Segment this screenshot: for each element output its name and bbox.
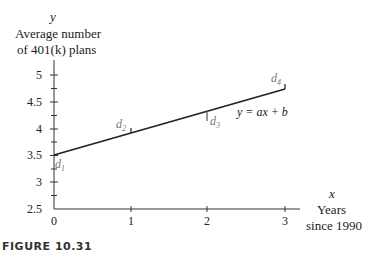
- y-axis-label-line1: Average number: [15, 26, 101, 42]
- y-tick-label-2.5: 2.5: [27, 202, 42, 217]
- x-tick-label-2: 2: [204, 214, 210, 229]
- y-tick-label-3: 3: [36, 175, 42, 190]
- regression-line: [54, 89, 285, 155]
- y-tick-label-3.5: 3.5: [27, 148, 42, 163]
- x-tick-label-0: 0: [51, 214, 57, 229]
- y-tick-label-4: 4: [36, 122, 42, 137]
- line-equation-label: y = ax + b: [237, 105, 288, 120]
- y-tick-label-4.5: 4.5: [27, 95, 42, 110]
- x-tick-label-1: 1: [128, 214, 134, 229]
- x-axis-label-line1: Years: [317, 202, 346, 218]
- y-tick-label-5: 5: [36, 68, 42, 83]
- y-axis-symbol: y: [50, 9, 56, 25]
- point-label-d2: d2d2: [116, 117, 126, 133]
- point-label-d4: d4d4: [271, 71, 281, 87]
- x-axis-label-line2: since 1990: [306, 218, 362, 234]
- y-axis-label-line2: of 401(k) plans: [17, 42, 96, 58]
- x-axis-symbol: x: [329, 186, 335, 202]
- point-label-d3: d3d3: [210, 114, 220, 130]
- point-label-d1: d1d1: [55, 157, 65, 173]
- figure-caption: FIGURE 10.31: [2, 240, 92, 253]
- x-tick-label-3: 3: [282, 214, 288, 229]
